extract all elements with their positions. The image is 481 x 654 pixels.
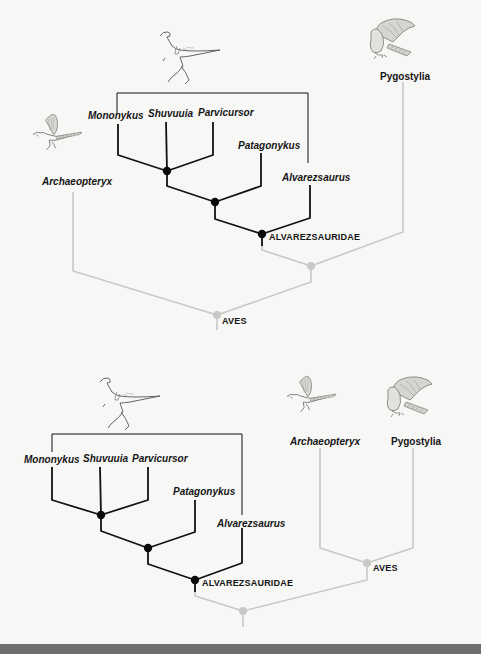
alvarezsauridae-bracket <box>52 434 242 515</box>
taxon-label-patagonykus: Patagonykus <box>238 140 300 152</box>
taxon-label-alvarezsaurus: Alvarezsaurus <box>282 172 350 184</box>
taxon-label-archaeopteryx: Archaeopteryx <box>290 436 360 448</box>
top-tree <box>33 19 415 330</box>
taxon-label-shuvuuia: Shuvuuia <box>83 453 128 465</box>
avian-branches <box>195 448 413 627</box>
taxon-label-mononykus: Mononykus <box>24 454 80 466</box>
node-alvarezsauridae <box>191 576 199 584</box>
taxon-label-archaeopteryx: Archaeopteryx <box>42 176 112 188</box>
archaeopteryx-illustration <box>33 114 82 149</box>
taxon-label-parvicursor: Parvicursor <box>198 107 254 119</box>
phylogeny-canvas <box>0 0 481 654</box>
alvarezsaurid-illustration <box>160 32 220 84</box>
bottom-tree <box>52 376 432 627</box>
node-alvarezsauridae-aves <box>239 607 247 615</box>
clade-label-aves: AVES <box>222 316 247 326</box>
alvarezsaurid-illustration <box>100 378 160 430</box>
page-edge-bar <box>0 644 481 654</box>
pygostylian-bird-illustration <box>387 377 432 417</box>
taxon-label-shuvuuia: Shuvuuia <box>148 108 193 120</box>
node-aves <box>213 311 221 319</box>
node-aves <box>363 559 371 567</box>
taxon-label-pygostylia: Pygostylia <box>391 436 441 448</box>
node-patagonykus-clade <box>211 198 219 206</box>
taxon-label-patagonykus: Patagonykus <box>173 486 235 498</box>
taxon-label-mononykus: Mononykus <box>88 110 144 122</box>
taxon-label-alvarezsaurus: Alvarezsaurus <box>217 518 285 530</box>
archaeopteryx-illustration <box>287 376 336 411</box>
taxon-label-pygostylia: Pygostylia <box>380 71 430 83</box>
node-pygostylia-alvarezsauridae <box>307 262 315 270</box>
clade-label-aves: AVES <box>373 563 398 573</box>
clade-label-alvarezsauridae: ALVAREZSAURIDAE <box>202 578 293 588</box>
clade-label-alvarezsauridae: ALVAREZSAURIDAE <box>269 232 360 242</box>
node-shuvuuia-clade <box>97 511 105 519</box>
node-patagonykus-clade <box>144 544 152 552</box>
pygostylian-bird-illustration <box>370 19 415 59</box>
taxon-label-parvicursor: Parvicursor <box>132 453 188 465</box>
node-alvarezsauridae <box>258 230 266 238</box>
node-shuvuuia-clade <box>163 167 171 175</box>
